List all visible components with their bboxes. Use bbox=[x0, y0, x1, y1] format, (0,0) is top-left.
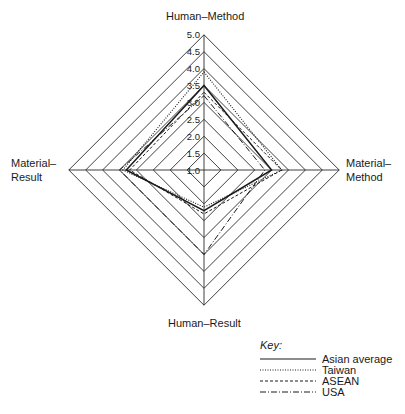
chart-series bbox=[120, 72, 282, 255]
svg-text:5.0: 5.0 bbox=[187, 29, 200, 40]
axis-label-material-result: Material– Result bbox=[11, 156, 56, 184]
svg-text:4.0: 4.0 bbox=[187, 63, 200, 74]
axis-label-human-method: Human–Method bbox=[166, 9, 244, 23]
axis-label-line: Material– bbox=[346, 156, 391, 170]
dash-dot-line-swatch-icon bbox=[260, 388, 316, 396]
axis-label-material-method: Material– Method bbox=[346, 156, 391, 184]
axis-label-line: Result bbox=[11, 170, 56, 184]
chart-grid bbox=[69, 35, 339, 305]
dashed-line-swatch-icon bbox=[260, 377, 316, 385]
svg-text:1.5: 1.5 bbox=[187, 148, 200, 159]
legend-item-asian-average: Asian average bbox=[260, 353, 392, 364]
dotted-line-swatch-icon bbox=[260, 366, 316, 374]
legend-label: USA bbox=[322, 386, 345, 398]
legend-item-asean: ASEAN bbox=[260, 375, 392, 386]
legend-title: Key: bbox=[260, 339, 392, 351]
svg-text:4.5: 4.5 bbox=[187, 46, 200, 57]
solid-line-swatch-icon bbox=[260, 355, 316, 363]
legend: Key: Asian average Taiwan ASEAN USA bbox=[260, 339, 392, 397]
axis-label-human-result: Human–Result bbox=[168, 316, 241, 330]
axis-label-line: Material– bbox=[11, 156, 56, 170]
svg-text:2.0: 2.0 bbox=[187, 131, 200, 142]
svg-text:2.5: 2.5 bbox=[187, 114, 200, 125]
legend-item-usa: USA bbox=[260, 386, 392, 397]
legend-item-taiwan: Taiwan bbox=[260, 364, 392, 375]
svg-text:1.0: 1.0 bbox=[187, 165, 200, 176]
axis-label-line: Method bbox=[346, 170, 391, 184]
